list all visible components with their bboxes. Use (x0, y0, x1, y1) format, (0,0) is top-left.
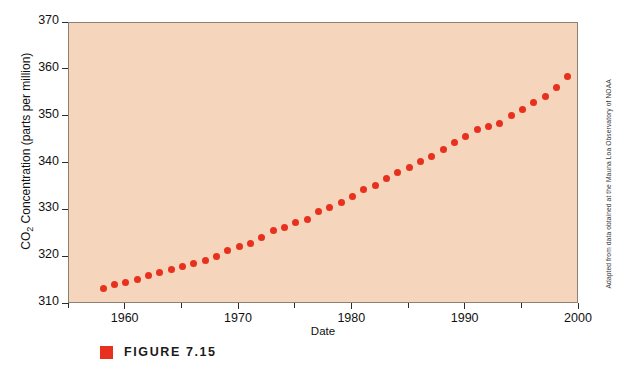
x-tick-line (521, 303, 522, 308)
figure-root: 310320330340350360370 CO2 Concentration … (0, 0, 625, 370)
y-tick-label: 350 (38, 107, 59, 121)
x-tick-label: 1980 (337, 311, 365, 325)
data-point (553, 84, 560, 91)
y-axis-title-subscript: 2 (25, 227, 35, 232)
data-point (519, 106, 526, 113)
data-point (179, 263, 186, 270)
x-tick-line (181, 303, 182, 308)
figure-caption: FIGURE 7.15 (100, 345, 217, 359)
data-point (338, 199, 345, 206)
x-tick-label: 1990 (451, 311, 479, 325)
data-point (542, 93, 549, 100)
y-tick-line (62, 68, 68, 69)
y-tick-label: 360 (38, 60, 59, 74)
data-point (451, 139, 458, 146)
x-tick-line (238, 303, 239, 309)
x-tick-label: 2000 (564, 311, 592, 325)
plot-area (68, 22, 578, 303)
y-tick-label: 320 (38, 247, 59, 261)
y-tick-line (62, 22, 68, 23)
y-tick-line (62, 209, 68, 210)
data-point (134, 276, 141, 283)
x-tick-line (68, 303, 69, 308)
data-point (236, 243, 243, 250)
x-tick-label: 1970 (224, 311, 252, 325)
y-tick-line (62, 162, 68, 163)
data-point (292, 219, 299, 226)
data-point (100, 285, 107, 292)
data-point (417, 158, 424, 165)
x-axis-title: Date (68, 325, 578, 337)
data-point (564, 73, 571, 80)
data-point (383, 175, 390, 182)
data-point (349, 193, 356, 200)
y-tick-line (62, 115, 68, 116)
figure-caption-label: FIGURE 7.15 (124, 345, 217, 359)
data-point (281, 224, 288, 231)
data-point (440, 146, 447, 153)
data-point (168, 266, 175, 273)
y-axis-title-prefix: CO (19, 232, 33, 250)
data-point (508, 112, 515, 119)
y-tick-label: 340 (38, 154, 59, 168)
data-point (122, 279, 129, 286)
data-point (326, 204, 333, 211)
caption-square-icon (100, 346, 113, 359)
data-point (156, 269, 163, 276)
data-point (190, 260, 197, 267)
data-point (428, 153, 435, 160)
data-point (111, 281, 118, 288)
x-tick-line (351, 303, 352, 309)
data-point (462, 133, 469, 140)
data-point (145, 272, 152, 279)
data-point (270, 227, 277, 234)
data-point (202, 257, 209, 264)
data-point (315, 208, 322, 215)
data-point (304, 216, 311, 223)
data-point (360, 186, 367, 193)
source-attribution: Adapted from data obtained at the Mauna … (605, 63, 612, 289)
y-tick-line (62, 256, 68, 257)
data-point (474, 126, 481, 133)
y-axis-title: CO2 Concentration (parts per million) (19, 26, 35, 276)
x-tick-line (578, 303, 579, 309)
x-tick-line (408, 303, 409, 308)
x-tick-line (464, 303, 465, 309)
data-point (258, 234, 265, 241)
x-tick-label: 1960 (111, 311, 139, 325)
x-tick-line (294, 303, 295, 308)
y-tick-label: 370 (38, 13, 59, 27)
data-point (224, 247, 231, 254)
data-point (372, 182, 379, 189)
data-point (496, 120, 503, 127)
data-point (530, 99, 537, 106)
data-point (406, 164, 413, 171)
y-axis-title-suffix: Concentration (parts per million) (19, 53, 33, 227)
x-tick-line (124, 303, 125, 309)
data-point (394, 169, 401, 176)
data-point (247, 240, 254, 247)
data-point (213, 253, 220, 260)
y-tick-label: 330 (38, 200, 59, 214)
data-point (485, 123, 492, 130)
